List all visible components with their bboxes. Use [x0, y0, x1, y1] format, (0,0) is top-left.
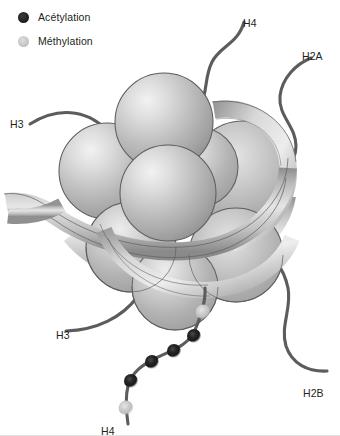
- tail-label-h4-top: H4: [243, 17, 257, 29]
- acetylation-mark: [124, 374, 138, 388]
- methylation-mark: [196, 305, 211, 320]
- acetylation-mark: [187, 329, 201, 343]
- tail-label-h3-upper-left: H3: [10, 118, 24, 130]
- methylation-mark: [119, 401, 134, 416]
- histone-sphere: [120, 145, 216, 241]
- nucleosome-figure: [0, 0, 340, 436]
- tail-label-h2b-lower-right: H2B: [303, 387, 324, 399]
- tail-label-h2a-right: H2A: [302, 50, 323, 62]
- tail-label-h3-lower-left: H3: [56, 329, 70, 341]
- acetylation-mark: [145, 355, 159, 369]
- acetylation-mark: [167, 344, 181, 358]
